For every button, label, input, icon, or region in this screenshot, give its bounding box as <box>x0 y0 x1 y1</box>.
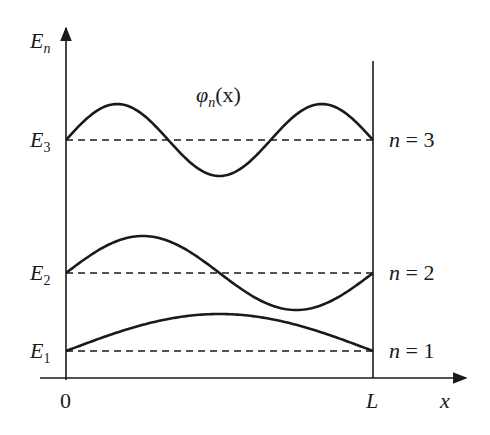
particle-in-box-diagram: En 0 L x φn(x) E1n = 1E2n = 2E3n = 3 <box>0 0 490 435</box>
origin-label: 0 <box>60 388 71 413</box>
energy-label-n1: E1 <box>29 338 50 366</box>
wavefunction-curve-n1 <box>66 314 373 351</box>
state-label-n3: n = 3 <box>389 127 434 152</box>
wavefunction-curve-n3 <box>66 104 373 176</box>
energy-label-n2: E2 <box>29 260 50 288</box>
state-label-n1: n = 1 <box>389 338 434 363</box>
wavefunction-curve-n2 <box>66 236 373 310</box>
energy-axis-label: En <box>29 28 50 56</box>
state-label-n2: n = 2 <box>389 260 434 285</box>
energy-label-n3: E3 <box>29 127 50 155</box>
wall-label: L <box>365 388 378 413</box>
x-axis-label: x <box>439 388 450 413</box>
wavefunction-label: φn(x) <box>196 82 241 110</box>
